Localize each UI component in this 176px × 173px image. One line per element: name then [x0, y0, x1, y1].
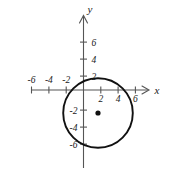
- y-tick-label-6: 6: [92, 38, 97, 48]
- y-tick-label-2: 2: [92, 72, 97, 82]
- x-tick-label--4: -4: [45, 75, 53, 85]
- x-tick-label-6: 6: [133, 94, 138, 104]
- x-tick-label-4: 4: [116, 94, 121, 104]
- y-tick-label-4: 4: [92, 55, 97, 65]
- x-tick-label-2: 2: [98, 94, 103, 104]
- y-tick-label--2: -2: [70, 106, 78, 116]
- y-axis-label: y: [87, 3, 93, 15]
- y-tick-label--4: -4: [70, 123, 78, 133]
- x-tick-label--6: -6: [28, 75, 36, 85]
- x-axis-label: x: [154, 84, 160, 96]
- x-tick-label--2: -2: [62, 75, 70, 85]
- cartesian-plot: -6 -4 -2 2 4 6 6 4 2 -2 -4 -6 x y: [0, 0, 176, 173]
- circle-center-point: [95, 110, 100, 115]
- y-tick-label--6: -6: [70, 140, 78, 150]
- graph-figure: -6 -4 -2 2 4 6 6 4 2 -2 -4 -6 x y: [0, 0, 176, 173]
